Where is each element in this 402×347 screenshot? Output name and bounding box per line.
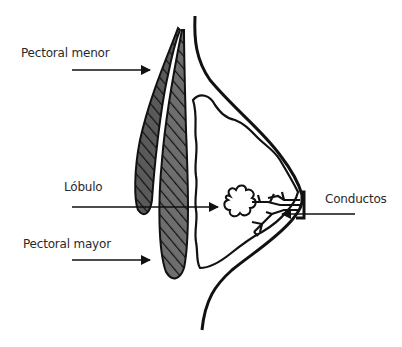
diagram-stage: Pectoral menor Lóbulo Pectoral mayor Con… xyxy=(0,0,402,347)
label-pectoral-mayor: Pectoral mayor xyxy=(23,237,111,251)
lobule xyxy=(224,186,255,217)
label-pectoral-menor: Pectoral menor xyxy=(21,46,109,60)
label-lobulo: Lóbulo xyxy=(64,180,103,194)
glandular-tissue-outline xyxy=(193,95,298,268)
label-conductos: Conductos xyxy=(325,192,387,206)
